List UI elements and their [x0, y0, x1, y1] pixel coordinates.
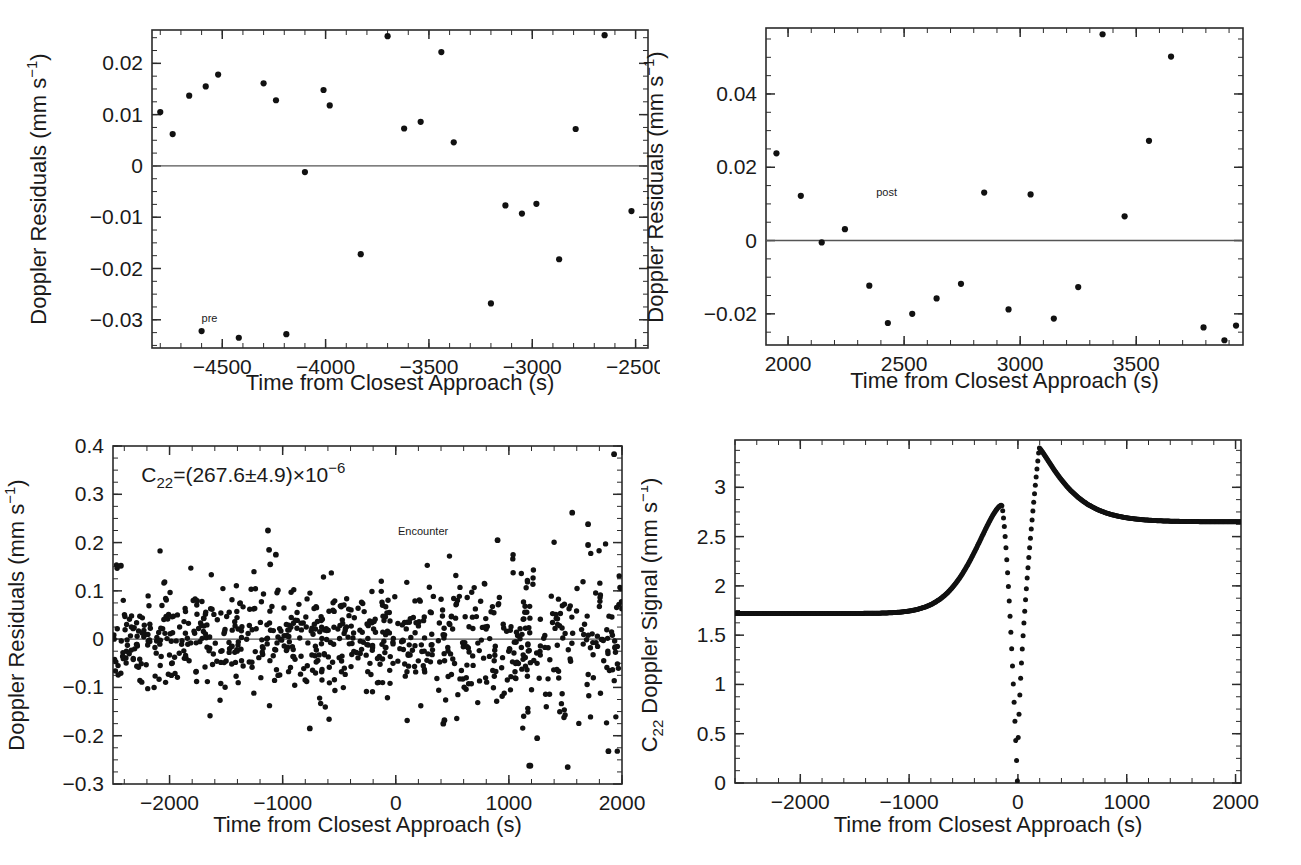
- data-point: [304, 596, 309, 601]
- data-point: [614, 605, 619, 610]
- data-point: [585, 542, 591, 548]
- data-point: [266, 547, 272, 553]
- data-point: [154, 650, 159, 655]
- data-point: [311, 606, 316, 611]
- data-point: [380, 613, 385, 618]
- data-point: [186, 621, 191, 626]
- data-point: [464, 595, 469, 600]
- data-point: [585, 521, 591, 527]
- data-point: [157, 109, 163, 115]
- data-point: [597, 604, 602, 609]
- y-tick-label: 3: [714, 475, 726, 498]
- data-point: [527, 763, 533, 769]
- curve-point: [1026, 555, 1031, 560]
- data-point: [157, 548, 162, 553]
- data-point: [397, 646, 402, 651]
- data-point: [223, 658, 228, 663]
- curve-point: [999, 503, 1004, 508]
- data-point: [1028, 191, 1034, 197]
- y-axis-label: C22 Doppler Signal (mm s−1): [641, 478, 666, 753]
- data-point: [403, 673, 408, 678]
- data-point: [516, 661, 521, 666]
- data-point: [492, 648, 497, 653]
- data-point: [364, 689, 369, 694]
- x-axis-label: Time from Closest Approach (s): [834, 812, 1143, 837]
- data-point: [319, 677, 324, 682]
- data-point: [359, 647, 364, 652]
- data-point: [119, 638, 124, 643]
- data-point: [422, 669, 427, 674]
- data-point: [352, 615, 357, 620]
- data-point: [422, 635, 427, 640]
- data-point: [390, 661, 395, 666]
- data-point: [355, 606, 360, 611]
- data-point: [292, 683, 297, 688]
- data-point: [307, 590, 312, 595]
- data-point: [494, 699, 499, 704]
- data-point: [387, 618, 392, 623]
- data-point: [235, 680, 240, 685]
- data-point: [251, 690, 256, 695]
- data-point: [464, 644, 469, 649]
- data-point: [379, 579, 384, 584]
- data-point: [555, 616, 560, 621]
- data-point: [232, 623, 237, 628]
- data-point: [545, 676, 550, 681]
- data-point: [418, 703, 423, 708]
- data-point: [303, 614, 308, 619]
- x-tick-label: 0: [390, 791, 402, 814]
- data-point: [529, 687, 534, 692]
- data-point: [595, 633, 600, 638]
- data-layer: [773, 31, 1239, 343]
- curve-point: [1008, 630, 1013, 635]
- annotation-post: post: [876, 186, 897, 198]
- data-point: [521, 599, 526, 604]
- data-point: [491, 658, 496, 663]
- data-point: [412, 598, 417, 603]
- data-point: [326, 716, 331, 721]
- data-point: [169, 638, 174, 643]
- data-point: [482, 581, 487, 586]
- data-point: [481, 655, 486, 660]
- data-point: [445, 648, 450, 653]
- data-point: [593, 590, 598, 595]
- data-point: [265, 635, 270, 640]
- data-point: [604, 720, 609, 725]
- data-point: [330, 600, 335, 605]
- data-point: [567, 656, 572, 661]
- data-point: [464, 662, 469, 667]
- data-point: [508, 687, 513, 692]
- data-point: [345, 634, 350, 639]
- plot-frame: [766, 28, 1243, 345]
- data-point: [211, 651, 216, 656]
- data-point: [159, 603, 164, 608]
- data-point: [281, 643, 286, 648]
- data-point: [449, 614, 454, 619]
- data-point: [557, 709, 562, 714]
- data-point: [326, 609, 331, 614]
- data-point: [513, 676, 518, 681]
- data-point: [365, 636, 370, 641]
- data-point: [202, 664, 207, 669]
- panel-pre-encounter: −4500−4000−3500−3000−25000.020.010−0.01−…: [0, 0, 660, 400]
- data-point: [341, 685, 346, 690]
- data-point: [331, 625, 336, 630]
- data-point: [562, 631, 567, 636]
- data-point: [249, 627, 254, 632]
- data-point: [318, 618, 323, 623]
- data-point: [418, 119, 424, 125]
- data-point: [559, 625, 564, 630]
- data-point: [588, 645, 593, 650]
- curve-point: [1016, 735, 1021, 740]
- data-point: [607, 668, 612, 673]
- data-point: [267, 561, 273, 567]
- data-point: [121, 598, 126, 603]
- data-point: [525, 641, 530, 646]
- data-point: [447, 622, 452, 627]
- data-point: [317, 695, 322, 700]
- data-point: [267, 658, 272, 663]
- data-point: [292, 657, 297, 662]
- data-point: [203, 631, 208, 636]
- data-point: [175, 612, 180, 617]
- data-point: [375, 680, 380, 685]
